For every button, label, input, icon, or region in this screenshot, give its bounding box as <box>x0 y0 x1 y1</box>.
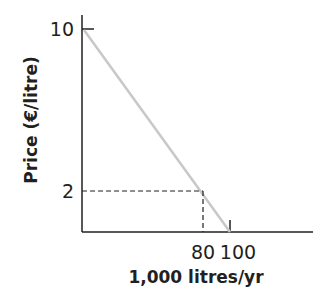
demand-chart: 10 2 80 100 1,000 litres/yr Price (€/lit… <box>0 0 333 300</box>
x-tick-label-100: 100 <box>220 241 256 263</box>
demand-line <box>84 30 230 232</box>
y-axis-title: Price (€/litre) <box>21 56 41 183</box>
x-tick-label-80: 80 <box>191 241 215 263</box>
y-tick-label-2: 2 <box>62 180 74 202</box>
y-tick-label-10: 10 <box>50 18 74 40</box>
x-axis-title: 1,000 litres/yr <box>128 267 264 287</box>
